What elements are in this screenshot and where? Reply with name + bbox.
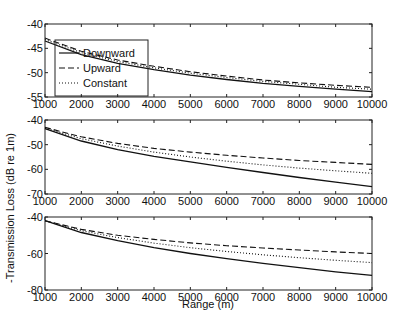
y-tick-label: -40	[27, 211, 43, 223]
x-tick-label: 8000	[287, 98, 311, 110]
y-tick-label: -55	[27, 91, 43, 103]
x-tick-label: 8000	[287, 291, 311, 303]
x-tick-label: 10000	[357, 195, 388, 207]
y-tick-label: -45	[27, 42, 43, 54]
x-tick-label: 7000	[251, 291, 275, 303]
x-tick-label: 8000	[287, 195, 311, 207]
legend-label-constant: Constant	[83, 77, 127, 89]
x-tick-label: 3000	[105, 291, 129, 303]
x-tick-label: 6000	[214, 98, 238, 110]
y-tick-label: -50	[27, 67, 43, 79]
x-tick-label: 2000	[69, 98, 93, 110]
panel-1: 1000200030004000500060007000800090001000…	[27, 18, 387, 110]
x-tick-label: 9000	[323, 98, 347, 110]
x-tick-label: 10000	[357, 291, 388, 303]
y-tick-label: -70	[27, 188, 43, 200]
axes-frame	[45, 217, 372, 290]
series-downward	[45, 129, 372, 187]
x-tick-label: 3000	[105, 98, 129, 110]
y-tick-label: -80	[27, 284, 43, 296]
legend-label-upward: Upward	[83, 62, 121, 74]
x-tick-label: 4000	[142, 98, 166, 110]
x-tick-label: 7000	[251, 195, 275, 207]
y-tick-label: -40	[27, 114, 43, 126]
x-tick-label: 7000	[251, 98, 275, 110]
x-tick-label: 3000	[105, 195, 129, 207]
legend-label-downward: Downward	[83, 47, 135, 59]
x-tick-label: 2000	[69, 195, 93, 207]
x-tick-label: 6000	[214, 195, 238, 207]
legend: DownwardUpwardConstant	[55, 40, 148, 96]
axes-frame	[45, 120, 372, 194]
x-tick-label: 5000	[178, 98, 202, 110]
x-tick-label: 4000	[142, 291, 166, 303]
x-tick-label: 4000	[142, 195, 166, 207]
figure: 1000200030004000500060007000800090001000…	[0, 0, 401, 333]
y-tick-label: -40	[27, 18, 43, 30]
x-tick-label: 9000	[323, 195, 347, 207]
series-upward	[45, 221, 372, 254]
y-tick-label: -50	[27, 139, 43, 151]
x-tick-label: 2000	[69, 291, 93, 303]
series-constant	[45, 128, 372, 173]
y-tick-label: -60	[27, 163, 43, 175]
panel-3: 1000200030004000500060007000800090001000…	[27, 211, 387, 303]
panel-2: 1000200030004000500060007000800090001000…	[27, 114, 387, 207]
y-tick-label: -60	[27, 248, 43, 260]
y-axis-label: -Transmission Loss (dB re 1m)	[4, 133, 16, 283]
x-axis-label: Range (m)	[182, 298, 234, 310]
series-downward	[45, 221, 372, 276]
series-upward	[45, 127, 372, 164]
x-tick-label: 5000	[178, 195, 202, 207]
x-tick-label: 9000	[323, 291, 347, 303]
x-tick-label: 10000	[357, 98, 388, 110]
